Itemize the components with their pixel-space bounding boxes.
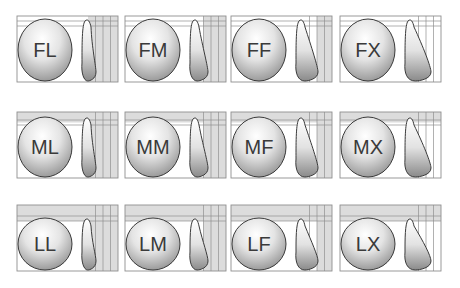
- implant-matrix: FLFMFFFXMLMMMFMXLLLMLFLX: [0, 0, 460, 288]
- implant-panel: LF: [231, 205, 332, 271]
- implant-side-view: [296, 219, 318, 270]
- panel-label: FF: [247, 39, 271, 61]
- implant-panel: FM: [125, 16, 226, 82]
- panel-label: LL: [34, 233, 56, 255]
- implant-side-view: [405, 219, 431, 270]
- panel-label: LM: [139, 233, 167, 255]
- panel-label: MM: [136, 136, 169, 158]
- implant-panel: LL: [17, 205, 118, 271]
- implant-panel: FL: [17, 16, 118, 82]
- panel-label: ML: [31, 136, 59, 158]
- implant-panel: ML: [17, 112, 118, 178]
- implant-side-view: [296, 118, 318, 177]
- implant-side-view: [405, 20, 431, 81]
- implant-panel: MX: [340, 112, 441, 178]
- implant-panel: FF: [231, 16, 332, 82]
- implant-panel: LX: [340, 205, 441, 271]
- panel-label: LX: [356, 233, 380, 255]
- implant-panel: MM: [125, 112, 226, 178]
- implant-panel: FX: [340, 16, 441, 82]
- panel-label: FX: [355, 39, 381, 61]
- implant-side-view: [296, 20, 318, 81]
- implant-side-view: [405, 118, 431, 177]
- panel-label: MF: [245, 136, 274, 158]
- implant-panel: LM: [125, 205, 226, 271]
- panel-label: FL: [33, 39, 56, 61]
- panel-label: MX: [353, 136, 383, 158]
- panel-label: FM: [139, 39, 168, 61]
- panel-label: LF: [247, 233, 270, 255]
- implant-panel: MF: [231, 112, 332, 178]
- panel-grid: FLFMFFFXMLMMMFMXLLLMLFLX: [17, 16, 441, 271]
